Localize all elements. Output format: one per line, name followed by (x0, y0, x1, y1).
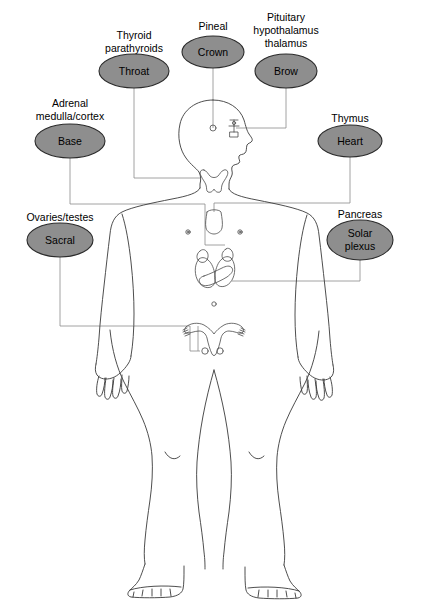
chakra-label-solar-plexus-line-0: Solar (348, 227, 373, 239)
gland-caption-throat-line-0: Thyroid (116, 29, 151, 41)
pituitary-hypothalamus-icon (229, 120, 239, 137)
right-arm-inner (295, 215, 307, 357)
chakra-endocrine-diagram: Thyroid parathyroids Throat Pineal Crown… (0, 0, 422, 602)
face-profile (213, 100, 252, 189)
nipple-left-inner (187, 231, 189, 233)
connector-sacral (60, 257, 200, 351)
left-leg-outer (110, 330, 152, 564)
chakra-label-solar-plexus-line-1: plexus (345, 240, 375, 252)
chakra-node-crown[interactable]: Pineal Crown (182, 20, 244, 68)
organ-group (183, 120, 245, 356)
connector-solar-plexus (232, 260, 360, 281)
chakra-label-base: Base (58, 135, 82, 147)
chakra-node-brow[interactable]: Pituitary hypothalamus thalamus Brow (253, 11, 318, 88)
gland-caption-solar-plexus-line-0: Pancreas (338, 208, 382, 220)
connector-throat (134, 88, 200, 178)
ovary-right-icon (238, 328, 245, 336)
chakra-label-heart: Heart (337, 135, 363, 147)
thymus-gland-icon (206, 210, 223, 234)
torso-outline-right (229, 189, 333, 365)
nipple-left-icon (186, 230, 190, 234)
chakra-label-brow: Brow (274, 65, 298, 77)
nipple-right-inner (239, 231, 241, 233)
left-hand (95, 356, 131, 379)
inner-leg-split (197, 370, 214, 569)
gland-caption-brow-line-0: Pituitary (267, 11, 306, 23)
chakra-node-sacral[interactable]: Ovaries/testes Sacral (26, 211, 93, 257)
gland-caption-sacral-line-0: Ovaries/testes (26, 211, 93, 223)
chakra-node-base[interactable]: Adrenal medulla/cortex Base (35, 97, 105, 158)
right-knee-crease (249, 452, 264, 459)
thyroid-gland-icon (200, 170, 228, 192)
gland-caption-crown-line-0: Pineal (198, 20, 227, 32)
diagram-canvas: Thyroid parathyroids Throat Pineal Crown… (0, 0, 422, 602)
left-foot (128, 564, 184, 598)
right-hand (298, 357, 334, 380)
adrenal-gland-left-icon (197, 250, 208, 263)
connector-brow (236, 88, 286, 128)
chakra-label-throat: Throat (119, 65, 149, 77)
human-figure-group (95, 100, 333, 599)
chakra-label-sacral: Sacral (45, 234, 75, 246)
left-arm-inner (122, 214, 134, 356)
gland-caption-base-line-1: medulla/cortex (36, 110, 105, 122)
chakra-node-throat[interactable]: Thyroid parathyroids Throat (99, 29, 169, 88)
left-foot-toes (130, 586, 181, 597)
chakra-node-solar-plexus[interactable]: Pancreas Solar plexus (327, 208, 393, 260)
gland-caption-brow-line-2: thalamus (265, 37, 308, 49)
chakra-label-crown: Crown (198, 46, 229, 58)
head-outline (179, 100, 213, 188)
right-foot (245, 565, 301, 599)
testis-left-icon (202, 348, 208, 354)
chakra-nodes-group: Thyroid parathyroids Throat Pineal Crown… (26, 11, 393, 260)
gland-caption-heart-line-0: Thymus (331, 112, 368, 124)
connector-base (70, 158, 225, 245)
left-knee-crease (165, 452, 180, 459)
nipple-right-icon (238, 230, 242, 234)
chakra-node-heart[interactable]: Thymus Heart (318, 112, 382, 157)
ovary-left-icon (183, 328, 190, 336)
gland-caption-brow-line-1: hypothalamus (253, 24, 318, 36)
gland-caption-base-line-0: Adrenal (52, 97, 88, 109)
right-leg-outer (277, 331, 319, 565)
right-foot-toes (248, 587, 299, 598)
navel-icon (212, 302, 216, 306)
adrenal-gland-right-icon (222, 248, 233, 261)
inner-leg-split-right (214, 370, 231, 569)
torso-outline (96, 188, 200, 364)
connector-group (60, 68, 360, 351)
gland-caption-throat-line-1: parathyroids (105, 42, 163, 54)
